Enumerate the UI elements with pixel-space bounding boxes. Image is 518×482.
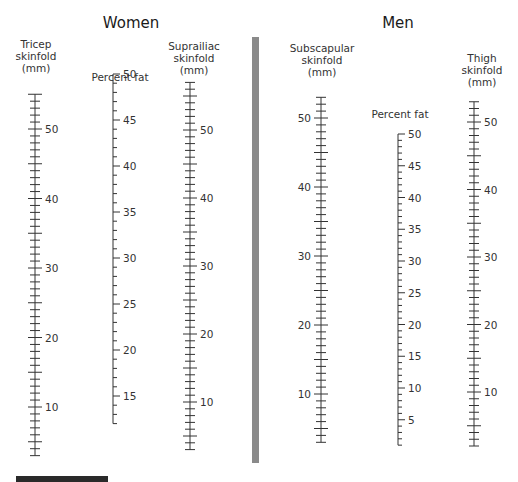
section-divider	[252, 37, 259, 463]
tick-label: 10	[298, 388, 311, 400]
tick-label: 40	[298, 181, 311, 193]
scale-suprailiac-skinfold-mm: 1020304050	[183, 82, 213, 449]
tick-label: 20	[408, 319, 421, 331]
tick-label: 40	[200, 192, 213, 204]
tick-label: 20	[298, 319, 311, 331]
tick-label: 40	[484, 184, 497, 196]
tick-label: 40	[408, 192, 421, 204]
tick-label: 15	[123, 390, 136, 402]
tick-label: 50	[45, 123, 58, 135]
tick-label: 5	[408, 414, 415, 426]
tick-label: 30	[123, 252, 136, 264]
tick-label: 10	[484, 386, 497, 398]
tick-label: 10	[200, 396, 213, 408]
tick-label: 50	[484, 116, 497, 128]
tick-label: 45	[408, 160, 421, 172]
scale-tricep-skinfold-mm: 1020304050	[28, 94, 58, 455]
tick-label: 10	[45, 401, 58, 413]
tick-label: 50	[298, 112, 311, 124]
tick-label: 35	[123, 206, 136, 218]
scale-percent-fat: 5101520253035404550	[398, 128, 421, 445]
tick-label: 50	[200, 124, 213, 136]
tick-label: 30	[408, 255, 421, 267]
tick-label: 30	[45, 262, 58, 274]
tick-label: 20	[45, 332, 58, 344]
tick-label: 50	[408, 128, 421, 140]
tick-label: 25	[408, 287, 421, 299]
tick-label: 40	[45, 193, 58, 205]
tick-label: 30	[298, 250, 311, 262]
scale-subscapular-skinfold-mm: 1020304050	[298, 97, 328, 442]
tick-label: 20	[123, 344, 136, 356]
tick-label: 15	[408, 350, 421, 362]
tick-label: 40	[123, 160, 136, 172]
scale-thigh-skinfold-mm: 1020304050	[467, 102, 497, 446]
tick-label: 30	[200, 260, 213, 272]
tick-label: 20	[484, 319, 497, 331]
tick-label: 45	[123, 114, 136, 126]
scale-percent-fat: 1520253035404550	[113, 68, 136, 424]
tick-label: 50	[123, 68, 136, 80]
tick-label: 20	[200, 328, 213, 340]
tick-label: 10	[408, 382, 421, 394]
tick-label: 35	[408, 223, 421, 235]
tick-label: 25	[123, 298, 136, 310]
tick-label: 30	[484, 251, 497, 263]
footer-bar	[16, 476, 108, 482]
